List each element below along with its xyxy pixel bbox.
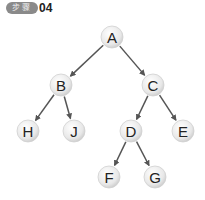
node-label: A bbox=[107, 29, 117, 46]
node-A: A bbox=[101, 26, 123, 48]
edge-C-D bbox=[137, 96, 148, 119]
binary-tree-diagram: ABCHJDEFG bbox=[0, 0, 205, 200]
node-E: E bbox=[172, 120, 194, 142]
edge-D-G bbox=[137, 142, 149, 166]
edge-A-B bbox=[70, 45, 103, 76]
edge-C-E bbox=[160, 95, 176, 120]
node-H: H bbox=[17, 120, 39, 142]
node-F: F bbox=[98, 166, 120, 188]
node-B: B bbox=[50, 74, 72, 96]
node-label: D bbox=[126, 123, 137, 140]
node-C: C bbox=[142, 74, 164, 96]
node-J: J bbox=[63, 120, 85, 142]
node-label: G bbox=[149, 169, 161, 186]
edge-B-J bbox=[64, 97, 70, 119]
node-G: G bbox=[144, 166, 166, 188]
node-label: J bbox=[70, 123, 78, 140]
node-label: F bbox=[104, 169, 113, 186]
edge-A-C bbox=[120, 46, 145, 75]
edge-D-F bbox=[115, 142, 126, 165]
node-label: B bbox=[56, 77, 66, 94]
edge-B-H bbox=[36, 95, 54, 121]
node-label: H bbox=[23, 123, 34, 140]
node-D: D bbox=[120, 120, 142, 142]
node-label: C bbox=[148, 77, 159, 94]
node-label: E bbox=[178, 123, 188, 140]
